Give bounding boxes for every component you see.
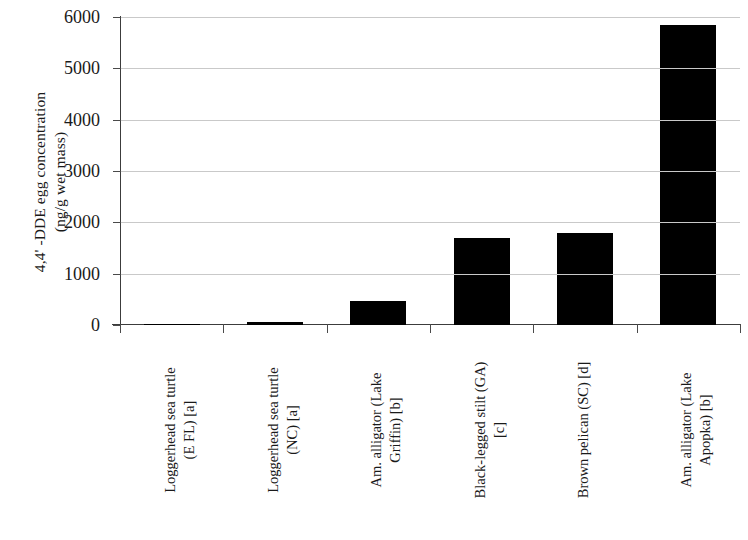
y-axis-tick-mark	[113, 120, 121, 121]
x-axis-category-label-line: (NC) [a]	[283, 405, 302, 455]
x-axis-tick-mark	[740, 324, 741, 333]
plot-area	[120, 17, 740, 325]
bar	[454, 238, 510, 325]
bar	[144, 324, 200, 326]
gridline	[120, 120, 740, 121]
gridline	[120, 17, 740, 18]
x-axis-category-labels: Loggerhead sea turtle(E FL) [a]Loggerhea…	[120, 330, 740, 538]
x-axis-category-label-line: Loggerhead sea turtle	[161, 367, 180, 493]
x-axis-category-label-line: Apopka) [b]	[696, 394, 715, 465]
y-axis-tick-mark	[113, 17, 121, 18]
y-axis-tick-mark	[113, 171, 121, 172]
y-axis-tick-label: 1000	[64, 265, 100, 283]
bar	[557, 233, 613, 325]
x-axis-category-label-line: Brown pelican (SC) [d]	[574, 362, 593, 499]
y-axis-tick-labels: 0100020003000400050006000	[0, 0, 112, 540]
x-axis-category-label-line: Am. alligator (Lake	[677, 373, 696, 488]
y-axis-tick-mark	[113, 274, 121, 275]
x-axis-category-label-line: (E FL) [a]	[180, 401, 199, 460]
x-axis-category-label: Black-legged stilt (GA)[c]	[471, 330, 493, 530]
gridline	[120, 222, 740, 223]
y-axis-tick-label: 6000	[64, 8, 100, 26]
x-axis-category-label-line: [c]	[490, 422, 509, 438]
y-axis-tick-mark	[113, 222, 121, 223]
x-axis-category-label: Loggerhead sea turtle(E FL) [a]	[161, 330, 183, 530]
bar	[350, 301, 406, 325]
gridline	[120, 274, 740, 275]
y-axis-tick-mark	[113, 68, 121, 69]
x-axis-category-label-line: Am. alligator (Lake	[367, 373, 386, 488]
x-axis-category-label: Brown pelican (SC) [d]	[574, 330, 596, 530]
y-axis-tick-label: 2000	[64, 213, 100, 231]
y-axis-tick-label: 4000	[64, 111, 100, 129]
x-axis-category-label-line: Griffin) [b]	[386, 397, 405, 462]
x-axis-category-label-line: Black-legged stilt (GA)	[471, 362, 490, 499]
gridline	[120, 171, 740, 172]
bar-chart: 4,4' -DDE egg concentration (ng/g wet ma…	[0, 0, 748, 540]
bar	[660, 25, 716, 325]
x-axis-category-label: Am. alligator (LakeApopka) [b]	[677, 330, 699, 530]
gridline	[120, 68, 740, 69]
y-axis-tick-label: 3000	[64, 162, 100, 180]
y-axis-tick-label: 5000	[64, 59, 100, 77]
bar	[247, 322, 303, 325]
x-axis-category-label-line: Loggerhead sea turtle	[264, 367, 283, 493]
y-axis-tick-label: 0	[91, 316, 100, 334]
x-axis-category-label: Loggerhead sea turtle(NC) [a]	[264, 330, 286, 530]
x-axis-category-label: Am. alligator (LakeGriffin) [b]	[367, 330, 389, 530]
